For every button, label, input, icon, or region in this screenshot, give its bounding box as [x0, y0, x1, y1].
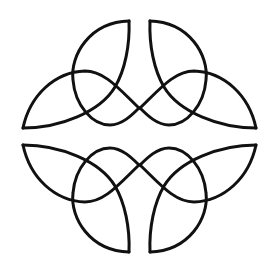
celtic-knot-figure [0, 0, 272, 271]
background [0, 0, 272, 271]
